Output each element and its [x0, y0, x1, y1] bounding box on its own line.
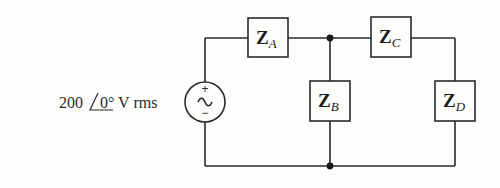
za-main-label: Z	[256, 27, 269, 48]
zd-main-label: Z	[443, 90, 456, 111]
za-subscript: A	[268, 36, 277, 51]
source-plus-sign: +	[201, 82, 208, 96]
zb-subscript: B	[331, 99, 339, 114]
source-minus-sign: −	[201, 106, 208, 120]
circuit-diagram: + − 200 0° V rms ZA ZB ZC ZD	[0, 0, 500, 188]
node-top-junction	[327, 35, 334, 42]
zc-main-label: Z	[379, 26, 392, 47]
source-angle: 0°	[100, 94, 114, 111]
source-unit: V rms	[114, 94, 157, 111]
zd-subscript: D	[455, 99, 466, 114]
source-magnitude: 200	[59, 94, 83, 111]
svg-text:0° V rms: 0° V rms	[100, 94, 157, 111]
impedance-zb: ZB	[310, 81, 350, 121]
zc-subscript: C	[392, 35, 401, 50]
ac-voltage-source: + −	[185, 82, 225, 122]
svg-text:200: 200	[59, 94, 83, 111]
zb-main-label: Z	[318, 90, 331, 111]
impedance-zd: ZD	[435, 81, 475, 121]
impedance-zc: ZC	[371, 17, 411, 57]
node-bottom-junction	[327, 163, 334, 170]
impedance-za: ZA	[248, 18, 288, 57]
source-label: 200 0° V rms	[59, 93, 157, 111]
